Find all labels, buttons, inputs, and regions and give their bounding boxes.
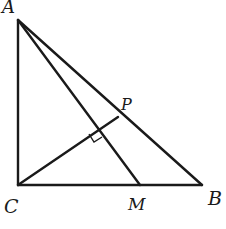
segment-cp bbox=[18, 117, 118, 185]
label-c: C bbox=[4, 195, 19, 217]
label-a: A bbox=[0, 0, 15, 17]
segment-ab bbox=[18, 20, 202, 185]
geometry-diagram: A P C M B bbox=[0, 0, 226, 229]
label-p: P bbox=[120, 95, 132, 114]
label-b: B bbox=[207, 187, 222, 209]
label-m: M bbox=[127, 194, 146, 214]
